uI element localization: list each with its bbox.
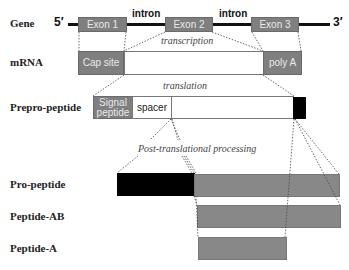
peptide-ab-bar bbox=[197, 205, 341, 228]
post-translational-processing-label: Post-translational processing bbox=[138, 143, 256, 154]
intron-label-2: intron bbox=[219, 8, 247, 19]
mrna-body bbox=[124, 51, 264, 75]
exon-2: Exon 2 bbox=[165, 17, 213, 32]
five-prime-label: 5′ bbox=[54, 15, 64, 29]
row-label-peptide-ab: Peptide-AB bbox=[10, 210, 64, 222]
exon-1: Exon 1 bbox=[78, 17, 127, 32]
row-label-peptide-a: Peptide-A bbox=[10, 242, 57, 254]
prepro-c-terminal-segment bbox=[293, 97, 306, 119]
spacer: spacer bbox=[132, 96, 172, 119]
exon-3: Exon 3 bbox=[251, 17, 299, 32]
row-label-pro-peptide: Pro-peptide bbox=[10, 178, 65, 190]
peptide-a-bar bbox=[198, 237, 287, 260]
pro-peptide-black-segment bbox=[117, 173, 195, 196]
signal-peptide-line1: Signal bbox=[99, 98, 127, 108]
intron-label-1: intron bbox=[132, 8, 160, 19]
translation-label: translation bbox=[163, 80, 207, 91]
row-label-mrna: mRNA bbox=[10, 56, 43, 68]
row-label-gene: Gene bbox=[10, 17, 34, 29]
transcription-label: transcription bbox=[161, 35, 213, 46]
signal-peptide: Signal peptide bbox=[93, 96, 133, 119]
cap-site: Cap site bbox=[78, 51, 124, 75]
poly-a: poly A bbox=[263, 51, 302, 75]
row-label-prepro-peptide: Prepro-peptide bbox=[10, 101, 81, 113]
three-prime-label: 3′ bbox=[333, 15, 343, 29]
signal-peptide-line2: peptide bbox=[97, 108, 130, 118]
pro-peptide-gray-segment bbox=[194, 174, 340, 197]
